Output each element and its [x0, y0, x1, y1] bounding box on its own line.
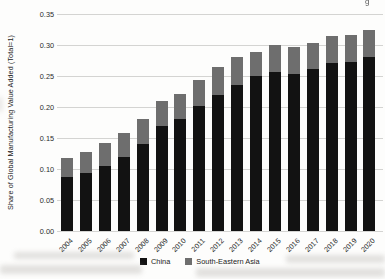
bar-segment-south-eastern-asia-2010: [174, 94, 186, 119]
legend: ChinaSouth-Eastern Asia: [140, 257, 260, 266]
legend-swatch: [185, 258, 192, 265]
legend-label: South-Eastern Asia: [196, 257, 259, 266]
bar-segment-china-2004: [61, 177, 73, 231]
bar-segment-south-eastern-asia-2005: [80, 152, 92, 172]
legend-label: China: [151, 257, 170, 266]
y-tick-label: 0.15: [14, 135, 54, 142]
bar-segment-south-eastern-asia-2017: [307, 43, 319, 70]
bar-segment-south-eastern-asia-2004: [61, 158, 73, 177]
bar-segment-china-2017: [307, 69, 319, 231]
page-bleed-artifact: [0, 265, 142, 274]
bar-2006: [99, 14, 111, 231]
bar-2005: [80, 14, 92, 231]
bar-segment-china-2006: [99, 166, 111, 231]
y-tick-label: 0.25: [14, 73, 54, 80]
bar-segment-china-2019: [345, 62, 357, 231]
bar-segment-south-eastern-asia-2006: [99, 143, 111, 166]
bar-2004: [61, 14, 73, 231]
page-bleed-artifact: [0, 97, 2, 112]
bar-segment-south-eastern-asia-2008: [137, 119, 149, 144]
bar-2009: [156, 14, 168, 231]
bar-segment-china-2005: [80, 173, 92, 231]
page-bleed-artifact: [196, 268, 385, 277]
y-tick-label: 0.05: [14, 197, 54, 204]
bar-segment-china-2013: [231, 85, 243, 231]
bar-segment-south-eastern-asia-2012: [212, 67, 224, 95]
bar-segment-china-2010: [174, 119, 186, 231]
bar-segment-china-2020: [363, 57, 375, 231]
bar-segment-china-2008: [137, 144, 149, 231]
bar-segment-south-eastern-asia-2018: [326, 36, 338, 63]
bar-segment-china-2016: [288, 74, 300, 231]
bar-2011: [193, 14, 205, 231]
y-tick-label: 0.00: [14, 228, 54, 235]
gridline-0.00: [57, 231, 383, 232]
bar-segment-south-eastern-asia-2009: [156, 101, 168, 126]
legend-item-china: China: [140, 257, 170, 266]
bar-segment-south-eastern-asia-2014: [250, 52, 262, 76]
y-tick-label: 0.35: [14, 11, 54, 18]
bar-segment-south-eastern-asia-2019: [345, 35, 357, 62]
bar-2018: [326, 14, 338, 231]
y-tick-label: 0.30: [14, 42, 54, 49]
bar-segment-south-eastern-asia-2020: [363, 30, 375, 58]
bar-2019: [345, 14, 357, 231]
bar-segment-china-2014: [250, 76, 262, 231]
y-tick-label: 0.20: [14, 104, 54, 111]
bar-2012: [212, 14, 224, 231]
legend-swatch: [140, 258, 147, 265]
bar-2020: [363, 14, 375, 231]
bar-segment-china-2009: [156, 126, 168, 231]
bar-segment-china-2007: [118, 157, 130, 231]
cropped-text-fragment: g: [365, 0, 369, 6]
stacked-bar-chart: Share of Global Manufacturing Value Adde…: [0, 0, 385, 279]
bar-segment-china-2012: [212, 95, 224, 231]
bar-segment-south-eastern-asia-2013: [231, 57, 243, 84]
bar-segment-south-eastern-asia-2007: [118, 133, 130, 157]
bar-2013: [231, 14, 243, 231]
bar-2015: [269, 14, 281, 231]
y-tick-label: 0.10: [14, 166, 54, 173]
bar-2014: [250, 14, 262, 231]
bar-segment-china-2011: [193, 106, 205, 231]
bar-segment-south-eastern-asia-2011: [193, 80, 205, 107]
bar-2008: [137, 14, 149, 231]
bar-2010: [174, 14, 186, 231]
bar-2016: [288, 14, 300, 231]
bar-segment-south-eastern-asia-2016: [288, 47, 300, 74]
bar-segment-china-2015: [269, 72, 281, 231]
legend-item-south-eastern-asia: South-Eastern Asia: [185, 257, 259, 266]
bar-2007: [118, 14, 130, 231]
bar-2017: [307, 14, 319, 231]
bar-segment-china-2018: [326, 63, 338, 231]
bar-segment-south-eastern-asia-2015: [269, 45, 281, 72]
